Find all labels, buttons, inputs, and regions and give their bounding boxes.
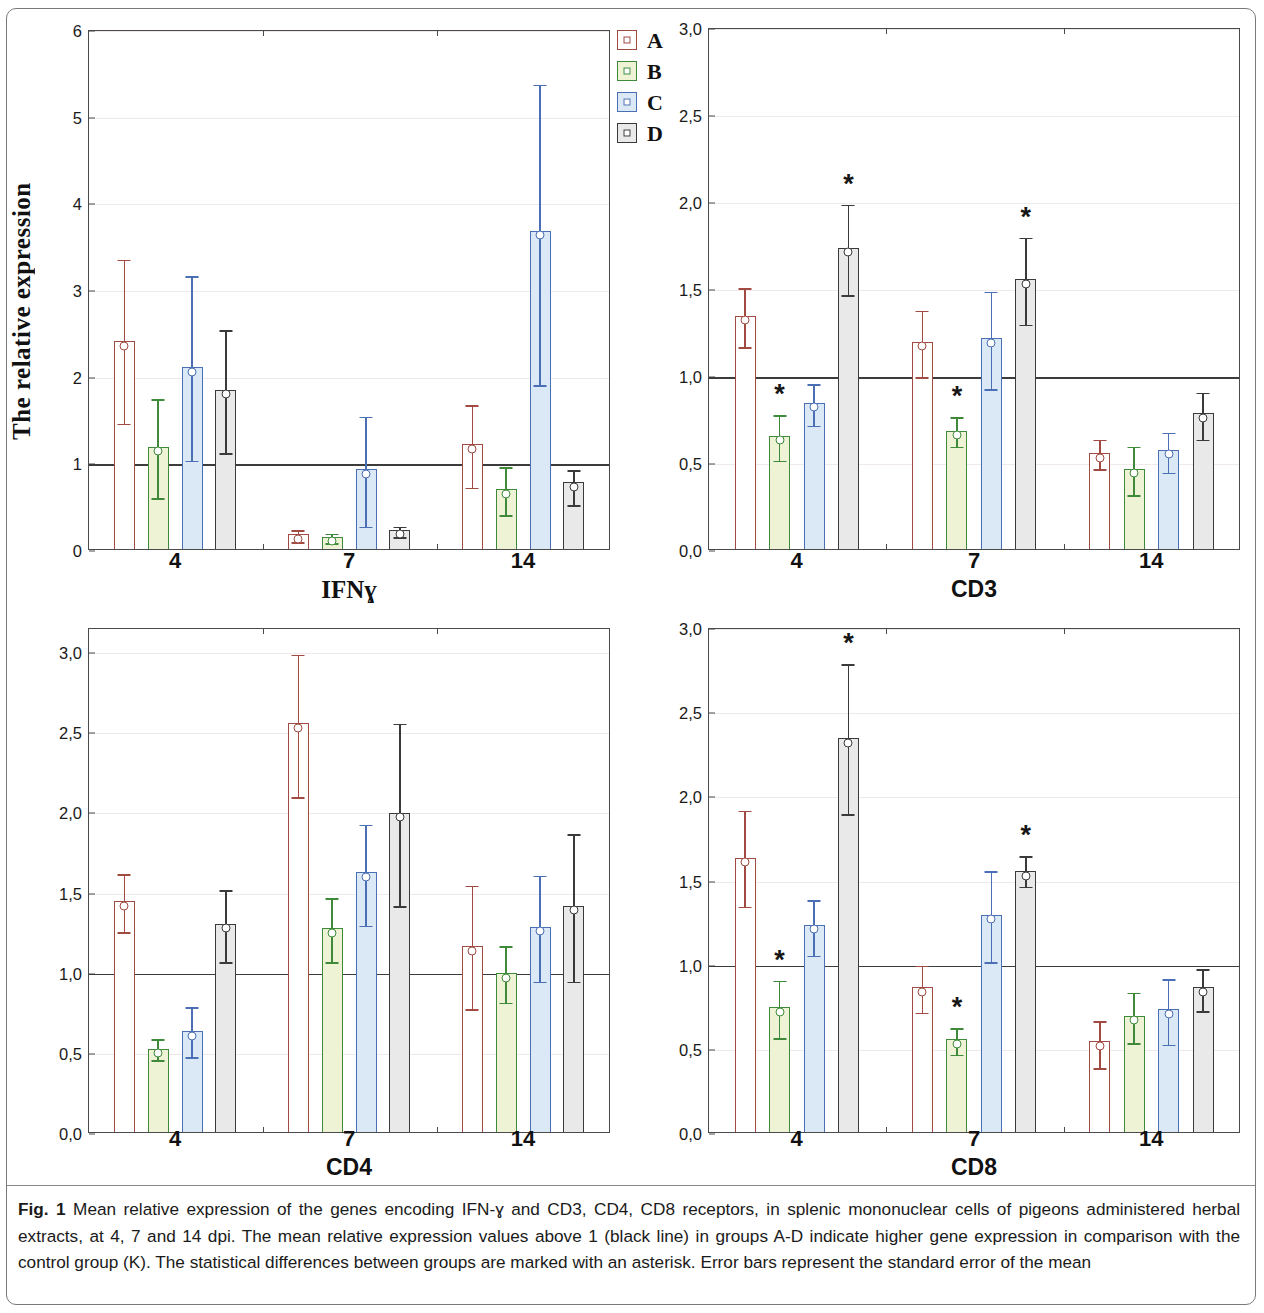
error-cap-lower	[950, 447, 963, 449]
mean-marker	[188, 1031, 197, 1040]
x-category-label: 14	[511, 1126, 535, 1152]
error-cap-upper	[1162, 979, 1175, 981]
y-tick-mark	[709, 551, 715, 552]
y-tick-mark	[89, 893, 95, 894]
error-cap-lower	[466, 1009, 479, 1011]
y-tick-mark	[709, 713, 715, 714]
error-cap-lower	[1019, 887, 1032, 889]
x-tick-mark	[886, 1127, 887, 1132]
y-tick-label: 1,0	[679, 956, 709, 975]
error-cap-upper	[1019, 856, 1032, 858]
x-tick-mark-top	[886, 629, 887, 634]
y-tick-mark	[89, 377, 95, 378]
error-cap-upper	[916, 966, 929, 968]
error-cap-upper	[985, 292, 998, 294]
error-cap-lower	[842, 814, 855, 816]
mean-marker	[1095, 1041, 1104, 1050]
error-cap-lower	[360, 527, 373, 529]
y-tick-label: 5	[73, 108, 89, 127]
error-cap-upper	[842, 664, 855, 666]
error-cap-upper	[1197, 969, 1210, 971]
error-cap-lower	[152, 498, 165, 500]
error-cap-upper	[1128, 447, 1141, 449]
y-tick-label: 0,5	[59, 1044, 89, 1063]
error-cap-upper	[534, 85, 547, 87]
error-cap-lower	[1128, 495, 1141, 497]
error-cap-lower	[808, 956, 821, 958]
panel-title-cd3: CD3	[951, 576, 997, 603]
error-cap-upper	[773, 981, 786, 983]
y-tick-mark	[89, 1134, 95, 1135]
error-cap-lower	[1019, 325, 1032, 327]
panel-cd3: 0,00,51,01,52,02,53,0****4714CD3	[640, 0, 1264, 610]
mean-marker	[395, 530, 404, 539]
y-tick-label: 1,5	[59, 884, 89, 903]
mean-marker	[221, 924, 230, 933]
y-tick-label: 2,0	[679, 788, 709, 807]
mean-marker	[294, 534, 303, 543]
x-tick-mark-top	[437, 31, 438, 36]
error-cap-lower	[1093, 1068, 1106, 1070]
y-tick-mark	[89, 653, 95, 654]
mean-marker	[1164, 1009, 1173, 1018]
error-cap-lower	[326, 962, 339, 964]
error-cap-upper	[842, 205, 855, 207]
x-category-label: 14	[1139, 548, 1163, 574]
mean-marker	[502, 489, 511, 498]
panel-ifng: 01234564714IFNɣ	[0, 0, 640, 610]
bar-cd3-7-B	[946, 431, 967, 549]
error-cap-upper	[950, 1028, 963, 1030]
error-cap-lower	[916, 1013, 929, 1015]
gridline	[89, 118, 609, 119]
error-cap-lower	[985, 962, 998, 964]
x-category-label: 4	[791, 548, 803, 574]
figure-panels: The relative expression 01234564714IFNɣ …	[0, 0, 1264, 1180]
mean-marker	[120, 901, 129, 910]
y-tick-mark	[709, 29, 715, 30]
y-tick-mark	[709, 290, 715, 291]
error-cap-upper	[739, 811, 752, 813]
x-tick-mark	[437, 544, 438, 549]
reference-line-1	[709, 377, 1239, 379]
y-tick-mark	[89, 1053, 95, 1054]
plot-area-ifng: 0123456	[88, 30, 610, 550]
mean-marker	[918, 342, 927, 351]
error-cap-lower	[500, 515, 513, 517]
error-cap-upper	[808, 900, 821, 902]
caption-label: Fig. 1	[18, 1199, 66, 1219]
gridline	[709, 290, 1239, 291]
y-tick-mark	[89, 733, 95, 734]
legend-label: C	[647, 90, 663, 116]
significance-asterisk: *	[952, 383, 963, 410]
error-cap-lower	[950, 1055, 963, 1057]
legend-swatch-icon	[617, 61, 637, 81]
panel-cd8: 0,00,51,01,52,02,53,0****4714CD8	[640, 610, 1264, 1180]
error-cap-upper	[360, 825, 373, 827]
y-tick-label: 3,0	[59, 644, 89, 663]
y-tick-mark	[709, 1134, 715, 1135]
error-cap-upper	[1019, 238, 1032, 240]
error-cap-lower	[534, 982, 547, 984]
y-tick-label: 3	[73, 282, 89, 301]
error-cap-upper	[808, 384, 821, 386]
mean-marker	[1199, 987, 1208, 996]
mean-marker	[1130, 1016, 1139, 1025]
error-cap-upper	[739, 288, 752, 290]
mean-marker	[918, 987, 927, 996]
y-tick-label: 3,0	[679, 620, 709, 639]
legend-item-b: B	[617, 59, 679, 85]
mean-marker	[294, 723, 303, 732]
mean-marker	[154, 1049, 163, 1058]
legend-label: B	[647, 59, 662, 85]
caption-divider	[7, 1185, 1255, 1186]
error-cap-upper	[567, 834, 580, 836]
legend-swatch-icon	[617, 92, 637, 112]
error-cap-lower	[985, 389, 998, 391]
plot-area-cd4: 0,00,51,01,52,02,53,0	[88, 628, 610, 1133]
y-tick-label: 0,0	[679, 542, 709, 561]
mean-marker	[1021, 279, 1030, 288]
x-tick-mark-top	[263, 629, 264, 634]
x-category-label: 4	[791, 1126, 803, 1152]
mean-marker	[810, 403, 819, 412]
x-tick-mark	[1064, 1127, 1065, 1132]
